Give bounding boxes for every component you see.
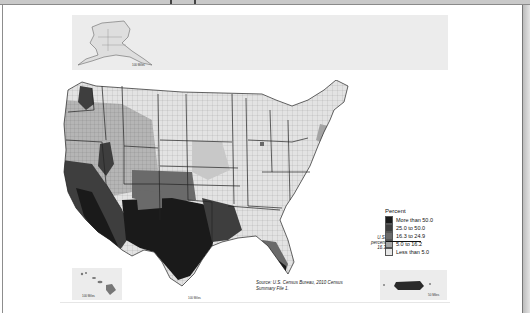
legend-swatch [385, 216, 393, 224]
legend-swatch [385, 224, 393, 232]
legend-title: Percent [385, 208, 406, 214]
us-percent-label: U.S. percent 16.3 [364, 235, 386, 250]
alaska-inset: 100 Miles [72, 15, 448, 70]
vertical-scrollbar[interactable] [523, 5, 530, 313]
puerto-rico-scale-label: 50 Miles [428, 293, 439, 297]
source-note: Source: U.S. Census Bureau, 2010 Census … [256, 280, 356, 291]
hawaii-inset: 100 Miles [72, 268, 122, 300]
legend-label: 16.3 to 24.9 [396, 232, 425, 240]
legend: Percent More than 50.0 25.0 to 50.0 16.3… [382, 208, 457, 258]
legend-item: 16.3 to 24.9 [385, 232, 457, 240]
legend-swatch [385, 248, 393, 256]
us-choropleth-map [62, 80, 392, 300]
region-az-north [136, 190, 162, 210]
region-chicago [260, 142, 264, 146]
ruler-tick [194, 0, 196, 4]
legend-item: Less than 5.0 [385, 248, 457, 256]
puerto-rico-inset: 50 Miles [380, 270, 447, 300]
legend-item: 25.0 to 50.0 [385, 224, 457, 232]
legend-label: More than 50.0 [396, 216, 433, 224]
hawaii-scale-label: 100 Miles [82, 294, 95, 298]
legend-swatch [385, 232, 393, 240]
ruler-tick [170, 0, 172, 4]
legend-label: Less than 5.0 [396, 248, 429, 256]
page-bottom-divider [60, 302, 450, 303]
alaska-shape [72, 15, 448, 70]
legend-label: 25.0 to 50.0 [396, 224, 425, 232]
us-percent-marker-line [386, 241, 421, 242]
hawaii-shape [72, 268, 122, 300]
map-scale-label: 100 Miles [188, 296, 201, 300]
alaska-scale-label: 100 Miles [132, 63, 145, 67]
legend-item: More than 50.0 [385, 216, 457, 224]
